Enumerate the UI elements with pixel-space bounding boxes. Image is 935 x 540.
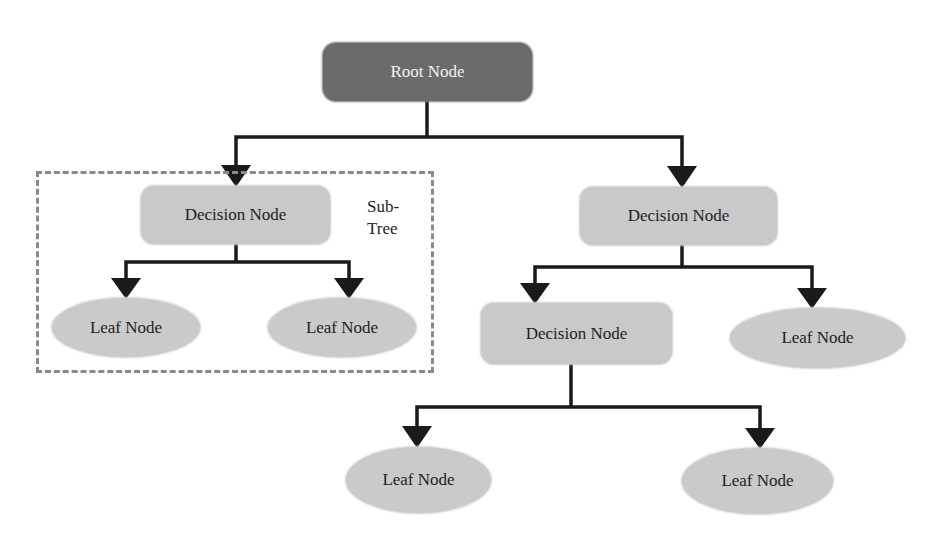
root-node: Root Node [323,43,532,101]
root-node-label: Root Node [390,62,464,82]
leaf-node-left-2: Leaf Node [268,298,416,357]
leaf-node-right-label: Leaf Node [781,328,853,348]
leaf-node-left-2-label: Leaf Node [306,318,378,338]
subtree-label-line1: Sub- [367,196,399,218]
leaf-node-bottom-1: Leaf Node [346,447,491,513]
arrowhead-icon [667,166,697,188]
connector-decision-right-2 [682,267,812,292]
connector-decision-child-1 [417,407,571,430]
leaf-node-bottom-1-label: Leaf Node [382,470,454,490]
arrowhead-icon [797,288,827,309]
arrowhead-icon [402,426,432,448]
decision-tree-diagram: Sub- Tree Root Node Decision Node Leaf N… [0,0,935,540]
connector-decision-right-1 [535,267,682,287]
decision-node-right-child-label: Decision Node [526,324,628,344]
leaf-node-bottom-2: Leaf Node [682,448,833,514]
decision-node-right-label: Decision Node [628,206,730,226]
decision-node-left: Decision Node [141,186,330,244]
connector-root-right [427,137,682,170]
subtree-label: Sub- Tree [367,196,399,240]
leaf-node-left-1: Leaf Node [52,298,200,357]
connector-decision-child-2 [571,407,760,432]
arrowhead-icon [520,283,550,304]
decision-node-right-child: Decision Node [481,303,672,364]
decision-node-right: Decision Node [580,187,777,245]
decision-node-left-label: Decision Node [185,205,287,225]
leaf-node-left-1-label: Leaf Node [90,318,162,338]
leaf-node-bottom-2-label: Leaf Node [721,471,793,491]
arrowhead-icon [745,428,775,449]
leaf-node-right: Leaf Node [730,308,905,368]
connector-root-left [236,137,427,168]
subtree-label-line2: Tree [367,218,399,240]
